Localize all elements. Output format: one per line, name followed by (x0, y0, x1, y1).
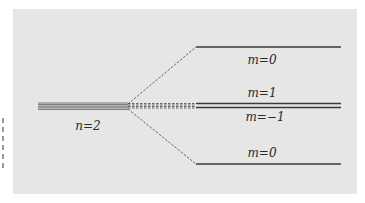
label-m-minus1: m=−1 (245, 110, 284, 124)
label-n2: n=2 (75, 119, 100, 133)
label-m1: m=1 (247, 86, 276, 100)
label-m0-bottom: m=0 (247, 146, 276, 160)
splitting-connectors (128, 47, 196, 164)
label-m0-top: m=0 (247, 53, 276, 67)
n2-level (38, 103, 128, 109)
energy-level-diagram (0, 0, 365, 203)
